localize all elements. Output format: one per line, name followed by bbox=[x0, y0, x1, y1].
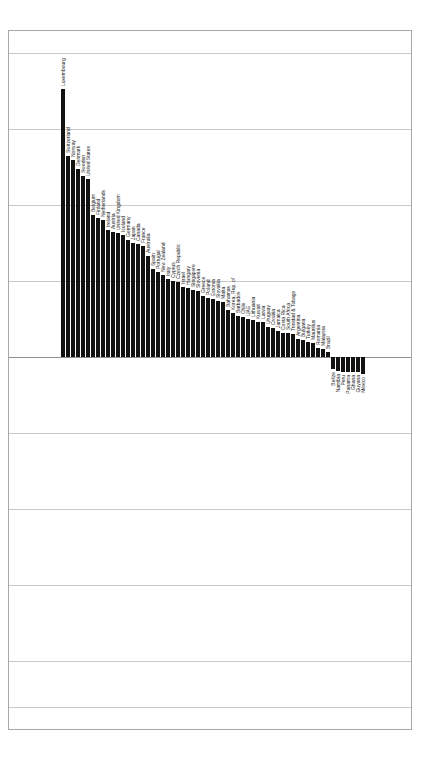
bar-group: Ireland bbox=[106, 31, 110, 729]
bar-group: Denmark bbox=[76, 31, 80, 729]
bar-group: Austria bbox=[111, 31, 115, 729]
chart-page: LuxembourgSwitzerlandNorwayDenmarkSweden… bbox=[0, 0, 425, 758]
bar bbox=[136, 244, 140, 357]
bar-label: Luxembourg bbox=[61, 58, 66, 86]
bar-group: Malaysia bbox=[321, 31, 325, 729]
bar-group: Norway bbox=[71, 31, 75, 729]
bar bbox=[316, 348, 320, 357]
bar-group: UAE bbox=[246, 31, 250, 729]
bar-group: Singapore bbox=[191, 31, 195, 729]
bar bbox=[246, 319, 250, 357]
bar-group: Jamaica bbox=[276, 31, 280, 729]
plot-area: LuxembourgSwitzerlandNorwayDenmarkSweden… bbox=[9, 31, 411, 729]
bar-label: México bbox=[361, 377, 366, 393]
bar-group: Mauritius bbox=[311, 31, 315, 729]
bar bbox=[251, 320, 255, 357]
bar-group: Netherlands bbox=[101, 31, 105, 729]
bar-group: Bulgaria bbox=[301, 31, 305, 729]
bar-label: Australia bbox=[146, 234, 151, 253]
bar-group: Canada bbox=[136, 31, 140, 729]
bar bbox=[281, 333, 285, 357]
bar bbox=[221, 302, 225, 357]
bar-group: Australia bbox=[146, 31, 150, 729]
bar-label: United States bbox=[86, 146, 91, 176]
bar bbox=[326, 352, 330, 357]
bar bbox=[321, 349, 325, 357]
bar-group: Estonia bbox=[211, 31, 215, 729]
bar-group: New Zealand bbox=[161, 31, 165, 729]
bar bbox=[271, 328, 275, 357]
bar bbox=[301, 340, 305, 357]
bar-group: Latvia bbox=[261, 31, 265, 729]
bar bbox=[146, 256, 150, 357]
bar bbox=[76, 169, 80, 357]
bar bbox=[226, 310, 230, 357]
bar-group: Cyprus bbox=[171, 31, 175, 729]
bar bbox=[186, 288, 190, 357]
bar bbox=[241, 317, 245, 357]
bar bbox=[306, 342, 310, 357]
bar bbox=[176, 282, 180, 357]
bar bbox=[161, 275, 165, 357]
bar bbox=[231, 313, 235, 357]
bar bbox=[201, 296, 205, 357]
bar bbox=[116, 233, 120, 357]
bar-group: United States bbox=[86, 31, 90, 729]
bar bbox=[291, 334, 295, 357]
bar-group: Kuwait bbox=[256, 31, 260, 729]
bar bbox=[256, 322, 260, 357]
bar-group: Sweden bbox=[81, 31, 85, 729]
bar bbox=[141, 246, 145, 357]
bar bbox=[206, 298, 210, 357]
bar bbox=[346, 357, 350, 372]
bar bbox=[121, 235, 125, 357]
bar-group: Barbados bbox=[236, 31, 240, 729]
bar-group: United Kingdom bbox=[116, 31, 120, 729]
bar bbox=[166, 279, 170, 357]
bar-group: Croatia bbox=[271, 31, 275, 729]
bar bbox=[106, 230, 110, 357]
bar-group: Chile bbox=[241, 31, 245, 729]
bar-group: Slovenia bbox=[196, 31, 200, 729]
bar bbox=[276, 331, 280, 357]
bar bbox=[156, 272, 160, 357]
bar-group: Spain bbox=[151, 31, 155, 729]
bar bbox=[81, 176, 85, 357]
bar-group: South Africa bbox=[286, 31, 290, 729]
bar-group: Slovakia bbox=[216, 31, 220, 729]
bar bbox=[101, 220, 105, 357]
bar bbox=[331, 357, 335, 369]
bar-group: Korea, Rep. of bbox=[231, 31, 235, 729]
bar-group: Israel bbox=[181, 31, 185, 729]
bar-group: Argentina bbox=[296, 31, 300, 729]
bar-group: Lithuania bbox=[251, 31, 255, 729]
bar-group: Turkey bbox=[306, 31, 310, 729]
bar-group: Portugal bbox=[156, 31, 160, 729]
bar bbox=[196, 291, 200, 357]
bar bbox=[286, 333, 290, 357]
bar-group: Japan bbox=[131, 31, 135, 729]
bar bbox=[216, 301, 220, 357]
bar-group: Czech Republic bbox=[176, 31, 180, 729]
bar bbox=[181, 287, 185, 357]
bar-group: Costa Rica bbox=[281, 31, 285, 729]
bar bbox=[336, 357, 340, 371]
bar bbox=[236, 316, 240, 357]
bar-group: Iceland bbox=[121, 31, 125, 729]
bar bbox=[361, 357, 365, 374]
bar bbox=[71, 160, 75, 357]
bar bbox=[171, 281, 175, 357]
bar bbox=[131, 243, 135, 357]
bar-group: Bahamas bbox=[226, 31, 230, 729]
bar-group: Italy bbox=[166, 31, 170, 729]
bar bbox=[211, 299, 215, 357]
bar-group: Greece bbox=[201, 31, 205, 729]
bar-group: Germany bbox=[126, 31, 130, 729]
bar bbox=[151, 269, 155, 357]
bar bbox=[356, 357, 360, 372]
bar-group: Belgium bbox=[91, 31, 95, 729]
bar-group: Romania bbox=[316, 31, 320, 729]
bar bbox=[341, 357, 345, 372]
bar bbox=[191, 290, 195, 357]
bar-group: Switzerland bbox=[66, 31, 70, 729]
